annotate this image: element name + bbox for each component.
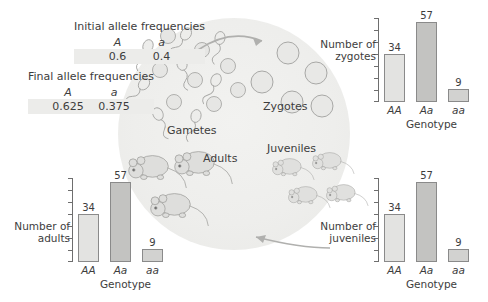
adults-bar-AA-value: 34 bbox=[82, 202, 95, 213]
chart-adults: 34 57 9 AA Aa aa Genotype bbox=[72, 178, 170, 262]
juveniles-xlabel-aa: aa bbox=[448, 264, 469, 276]
initial-allele-frequencies: Initial allele frequencies A a 0.6 0.4 bbox=[74, 20, 205, 64]
adults-bar-aa-value: 9 bbox=[149, 237, 155, 248]
final-allele-symbols: A a bbox=[28, 86, 154, 99]
zygotes-bar-AA: 34 bbox=[384, 42, 405, 102]
stage-label-zygotes: Zygotes bbox=[263, 100, 308, 113]
initial-value-A: 0.6 bbox=[96, 50, 140, 63]
final-frequencies-title: Final allele frequencies bbox=[28, 70, 154, 83]
initial-value-a: 0.4 bbox=[140, 50, 184, 63]
adults-bar-AA: 34 bbox=[78, 202, 99, 262]
juveniles-bar-Aa-value: 57 bbox=[420, 170, 433, 181]
adults-xlabel-aa: aa bbox=[142, 264, 163, 276]
final-value-a: 0.375 bbox=[91, 100, 137, 113]
chart-zygotes-label: Number of zygotes bbox=[318, 38, 376, 62]
zygotes-bar-Aa-value: 57 bbox=[420, 10, 433, 21]
adults-bar-Aa-value: 57 bbox=[114, 170, 127, 181]
adults-chart-x-title: Genotype bbox=[78, 278, 173, 290]
initial-allele-symbols: A a bbox=[74, 36, 205, 49]
juveniles-bar-Aa: 57 bbox=[416, 170, 437, 262]
stage-label-adults: Adults bbox=[203, 152, 237, 165]
zygotes-chart-x-title: Genotype bbox=[384, 118, 479, 130]
adults-chart-x-labels: AA Aa aa bbox=[78, 264, 163, 276]
chart-zygotes: 34 57 9 AA Aa aa Genotype bbox=[378, 18, 476, 102]
final-allele-a-symbol: a bbox=[91, 86, 137, 99]
juveniles-xlabel-AA: AA bbox=[384, 264, 405, 276]
adults-bar-aa: 9 bbox=[142, 237, 163, 262]
juveniles-bar-aa-value: 9 bbox=[455, 237, 461, 248]
initial-allele-A-symbol: A bbox=[96, 36, 140, 49]
initial-allele-a-symbol: a bbox=[140, 36, 184, 49]
juveniles-bar-aa: 9 bbox=[448, 237, 469, 262]
zygotes-bar-Aa: 57 bbox=[416, 10, 437, 102]
adults-xlabel-AA: AA bbox=[78, 264, 99, 276]
zygotes-xlabel-Aa: Aa bbox=[416, 104, 437, 116]
zygotes-xlabel-aa: aa bbox=[448, 104, 469, 116]
final-value-A: 0.625 bbox=[45, 100, 91, 113]
adults-chart-bars: 34 57 9 bbox=[78, 178, 163, 262]
juveniles-bar-AA: 34 bbox=[384, 202, 405, 262]
adults-bar-Aa: 57 bbox=[110, 170, 131, 262]
juveniles-xlabel-Aa: Aa bbox=[416, 264, 437, 276]
zygotes-bar-aa-value: 9 bbox=[455, 77, 461, 88]
zygotes-bar-aa: 9 bbox=[448, 77, 469, 102]
stage-label-juveniles: Juveniles bbox=[267, 142, 316, 155]
final-allele-frequencies: Final allele frequencies A a 0.625 0.375 bbox=[28, 70, 154, 114]
chart-adults-label: Number of adults bbox=[6, 220, 70, 244]
stage-label-gametes: Gametes bbox=[167, 124, 217, 137]
final-frequency-values: 0.625 0.375 bbox=[28, 99, 154, 114]
zygotes-bar-AA-value: 34 bbox=[388, 42, 401, 53]
zygotes-chart-bars: 34 57 9 bbox=[384, 18, 469, 102]
juveniles-bar-AA-value: 34 bbox=[388, 202, 401, 213]
zygotes-chart-x-labels: AA Aa aa bbox=[384, 104, 469, 116]
juveniles-chart-bars: 34 57 9 bbox=[384, 178, 469, 262]
chart-juveniles: 34 57 9 AA Aa aa Genotype bbox=[378, 178, 476, 262]
initial-frequencies-title: Initial allele frequencies bbox=[74, 20, 205, 33]
juveniles-chart-x-title: Genotype bbox=[384, 278, 479, 290]
juveniles-chart-x-labels: AA Aa aa bbox=[384, 264, 469, 276]
arrow-gametes-to-zygotes bbox=[196, 28, 276, 58]
adults-xlabel-Aa: Aa bbox=[110, 264, 131, 276]
zygotes-xlabel-AA: AA bbox=[384, 104, 405, 116]
chart-juveniles-label: Number of juveniles bbox=[312, 220, 376, 244]
juveniles-illustration bbox=[268, 150, 360, 222]
final-allele-A-symbol: A bbox=[45, 86, 91, 99]
initial-frequency-values: 0.6 0.4 bbox=[74, 49, 205, 64]
